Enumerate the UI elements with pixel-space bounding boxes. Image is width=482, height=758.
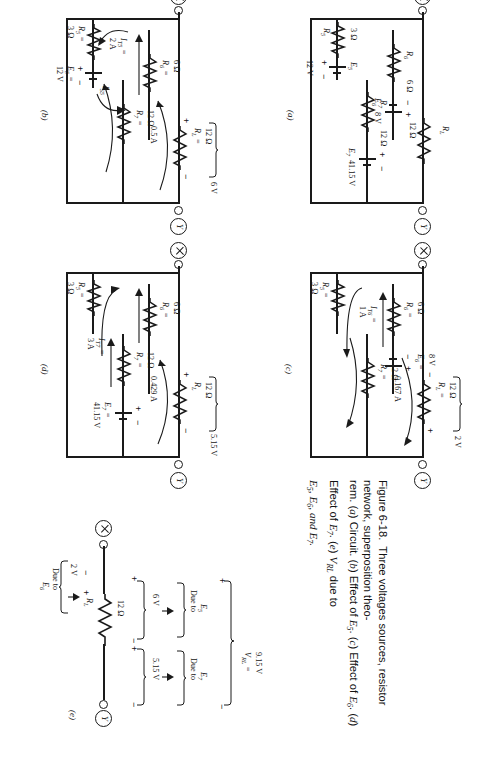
label-r7-name: R7 = (132, 352, 144, 368)
wire (310, 18, 312, 204)
wire (103, 644, 105, 700)
label-rl-drop: 2 V (453, 436, 462, 448)
label-r6-name: R6 = (158, 302, 170, 318)
sign-plus: + (76, 66, 84, 71)
current-arrow-r6 (134, 34, 144, 96)
sign-plus: + (134, 406, 142, 411)
voltage-brace-total (224, 580, 234, 706)
resistor-r6 (387, 298, 401, 336)
wire (67, 202, 180, 204)
label-due-to-e6-source: E6 (38, 582, 50, 590)
sign-minus: − (76, 80, 84, 85)
wire (67, 272, 180, 274)
terminal-x-node (414, 0, 431, 5)
current-arc-rl (150, 356, 172, 448)
sign-minus: − (320, 74, 328, 79)
caption-e5: E5 (348, 620, 360, 631)
label-vrl-value: 9.15 V (254, 652, 263, 674)
label-r7-value: 12 Ω (379, 130, 388, 146)
label-e5-value: 12 V (55, 66, 64, 82)
figure-caption: Figure 6-18. Three voltages sources, res… (301, 480, 390, 738)
label-r6-value: 6 Ω (405, 80, 414, 92)
label-it7-value: 3 A (86, 338, 95, 350)
label-r5-value: 3 Ω (349, 28, 358, 40)
sign-minus: − (404, 100, 412, 105)
wire (66, 272, 68, 458)
label-e7-value: 41.15 V (347, 160, 356, 186)
sign-plus: + (426, 428, 434, 433)
caption-seg: ) Effect of (348, 569, 360, 620)
label-v-due-e5: 6 V (151, 594, 160, 606)
label-rl-value: 12 Ω (408, 122, 417, 138)
terminal-y-label: Y (419, 224, 429, 229)
wire (178, 12, 180, 20)
due-to-brace-e5 (177, 582, 186, 638)
label-vrl-name: VRL = (240, 652, 252, 672)
caption-seg: . ( (348, 707, 360, 717)
terminal-y-node: Y (414, 218, 431, 235)
label-e6-value: 8 V (373, 112, 382, 124)
label-r6-name: R6 = (402, 302, 414, 318)
current-arc-r5 (342, 286, 364, 362)
terminal-y-node: Y (170, 472, 187, 489)
label-r6-value: 6 Ω (172, 60, 181, 72)
caption-seg: ) Circuit. ( (348, 515, 360, 563)
label-due-to-e7-source: E7 (196, 672, 208, 680)
sign-minus: − (404, 354, 412, 359)
label-rl-value: 12 Ω (116, 600, 125, 616)
panel-e: Y RL 12 Ω − + 2 V Due to E6 + − 6 V (22, 520, 182, 748)
wire (422, 12, 424, 20)
label-r6-value: 6 Ω (172, 302, 181, 314)
wire (67, 18, 180, 20)
resistor-r6 (143, 54, 157, 92)
wire (422, 266, 424, 274)
label-r6-value: 6 Ω (416, 302, 425, 314)
panel-b-id: (b) (40, 110, 50, 121)
caption-sources: E5, E6, and E7. (308, 480, 320, 546)
terminal-x-node (170, 242, 187, 259)
label-e7-value: 41.15 V (92, 402, 101, 428)
caption-seg: . ( (328, 535, 340, 545)
caption-seg: . ( (348, 631, 360, 641)
figure-page: Y RL 12 Ω R7 12 Ω + − E7 41.15 V (0, 0, 482, 758)
label-r6-name: R6 (402, 51, 414, 59)
caption-seg: ) Effect of (348, 645, 360, 696)
label-v-due-e7: 5.15 V (151, 658, 160, 680)
resistor-rl (173, 126, 187, 170)
current-arrow-r6 (134, 288, 144, 344)
sign-plus: + (404, 112, 412, 117)
terminal-y-node: Y (170, 218, 187, 235)
terminal-y-dot (174, 460, 183, 469)
wire (178, 18, 180, 204)
polarity-arrow-e5 (162, 606, 174, 616)
label-r5-value: 3 Ω (66, 282, 75, 294)
sign-minus: − (134, 420, 142, 425)
wire (310, 272, 312, 458)
voltage-brace-rl (453, 376, 462, 432)
due-to-brace-e7 (177, 650, 186, 706)
wire (422, 18, 424, 204)
label-rl-name: RL = (434, 382, 446, 398)
label-e5-name: E5 = (63, 66, 75, 82)
label-e5-value: 12 V (305, 60, 314, 76)
caption-e7: E7 (328, 524, 340, 535)
panel-c: Y − + RL = 12 Ω 2 V 0.167 A R7 = 12 Ω (274, 272, 464, 468)
terminal-y-dot (174, 206, 183, 215)
polarity-arrow-e7 (162, 672, 174, 682)
label-r7-value: 12 Ω (146, 352, 155, 368)
label-e7-name: E7 (344, 148, 356, 156)
label-e6-name: E6 (370, 98, 382, 106)
wire (178, 272, 180, 458)
current-arrow-it6 (378, 292, 388, 348)
panel-b: Y + − RL = 12 Ω 6 V 0.5 A R7 = 12 Ω (30, 18, 220, 214)
panel-e-id: (e) (68, 710, 78, 720)
label-r5-name: R5 = (318, 282, 330, 298)
label-rl-name: RL (438, 126, 450, 134)
label-r5-value: 3 Ω (66, 26, 75, 38)
resistor-rl (98, 594, 112, 646)
caption-seg: rem. ( (348, 480, 360, 509)
resistor-r6 (387, 44, 401, 82)
terminal-y-node: Y (95, 710, 112, 727)
label-e6-name: E6 = (413, 354, 425, 370)
wire (311, 456, 424, 458)
